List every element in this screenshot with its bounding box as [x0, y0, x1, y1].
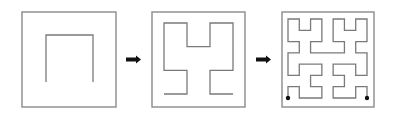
hilbert-curve-path [164, 23, 233, 94]
hilbert-order-1-panel [22, 12, 116, 107]
panels-group [22, 12, 374, 107]
panel-frame [282, 12, 374, 107]
panel-frame [152, 12, 245, 107]
hilbert-order-3-panel [282, 12, 374, 107]
hilbert-curve-path [46, 35, 93, 82]
arrow-2-to-3-icon [256, 56, 271, 64]
start-point-dot [286, 96, 290, 100]
hilbert-order-2-panel [152, 12, 245, 107]
end-point-dot [365, 96, 369, 100]
arrows-group [126, 56, 271, 64]
hilbert-curve-diagram [0, 0, 393, 114]
hilbert-curve-path [288, 19, 367, 98]
panel-frame [22, 12, 116, 107]
arrow-1-to-2-icon [126, 56, 141, 64]
